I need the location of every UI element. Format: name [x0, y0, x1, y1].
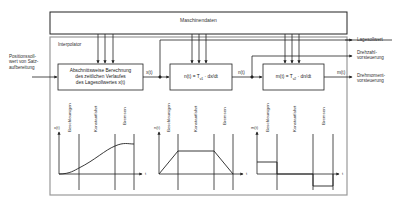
diagram-canvas	[0, 0, 403, 212]
chart1-xlabel: t	[145, 171, 146, 176]
chart1-ylabel: x(t)	[54, 125, 60, 130]
chart2-ylabel: n(t)	[154, 125, 160, 130]
chart3-phase-const: Konstantfahrt	[292, 106, 297, 132]
chart1-phase-accel: Beschleunigen	[67, 103, 72, 132]
velocity-curve	[159, 151, 233, 174]
chart3-phase-accel: Beschleunigen	[265, 103, 270, 132]
chart2-xlabel: t	[246, 171, 247, 176]
block-position-text: Abschnittsweise Berechnung des zeitliche…	[58, 68, 143, 86]
output-speed-feedforward: Drehzahl- vorsteuerung	[357, 50, 384, 61]
output-position-setpoint: Lagesollwert	[357, 37, 383, 42]
chart3-ylabel: m(t)	[251, 125, 258, 130]
chart2-phase-accel: Beschleunigen	[166, 103, 171, 132]
chart3-xlabel: t	[342, 171, 343, 176]
chart2-phase-brake: Bremsen	[222, 107, 227, 125]
output-torque-feedforward: Drehmoment- vorsteuerung	[357, 73, 385, 84]
block-velocity-formula: n(t) = Tv1 · dx/dt	[170, 74, 232, 82]
signal-x-label: x(t)	[146, 70, 153, 75]
block-torque-formula: m(t) = Tv2 · dn/dt	[263, 74, 324, 82]
chart3-phase-brake: Bremsen	[321, 107, 326, 125]
machine-data-label: Maschinendaten	[180, 18, 217, 23]
chart1-phase-brake: Bremsen	[122, 107, 127, 125]
interpolator-label: Interpolator	[58, 42, 81, 47]
signal-n-label: n(t)	[238, 70, 245, 75]
chart2-phase-const: Konstantfahrt	[193, 106, 198, 132]
input-label: Positionssoll- wert von Satz- aufbereitu…	[9, 54, 38, 70]
position-curve	[59, 144, 134, 175]
signal-m-label: m(t)	[337, 70, 345, 75]
chart1-phase-const: Konstantfahrt	[93, 106, 98, 132]
